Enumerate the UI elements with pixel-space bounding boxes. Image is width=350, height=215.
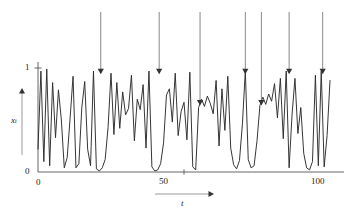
laminar-phase-arrow-2 (156, 12, 162, 74)
time-series-plot (0, 0, 350, 215)
y-axis-direction-arrowhead (19, 88, 25, 94)
y-tick-label-1: 1 (25, 63, 30, 72)
laminar-phase-arrow-6 (286, 12, 292, 74)
arrow-head (286, 69, 292, 74)
arrow-head (320, 69, 326, 74)
x-axis-label: t (181, 199, 184, 208)
arrow-head (197, 100, 203, 105)
x-axis-direction-arrowhead (209, 191, 215, 197)
laminar-phase-arrow-4 (242, 12, 248, 74)
y-axis-label: xt (11, 116, 17, 125)
y-tick-label-0: 0 (25, 167, 30, 176)
arrow-head (258, 100, 264, 105)
laminar-phase-arrow-1 (98, 12, 104, 74)
x-tick-label-100: 100 (311, 177, 325, 186)
laminar-phase-arrow-7 (320, 12, 326, 74)
x-tick-label-50: 50 (159, 177, 168, 186)
arrow-head (156, 69, 162, 74)
x-tick-label-0: 0 (36, 178, 41, 187)
y-axis-label-subscript: t (15, 118, 17, 124)
laminar-phase-arrow-3 (197, 12, 203, 105)
laminar-phase-arrow-5 (258, 12, 264, 105)
figure-container: 1 0 xt 0 50 100 t (0, 0, 350, 215)
arrow-head (242, 69, 248, 74)
arrow-head (98, 69, 104, 74)
series-line-x-t (38, 69, 330, 171)
series-layer (38, 69, 330, 171)
